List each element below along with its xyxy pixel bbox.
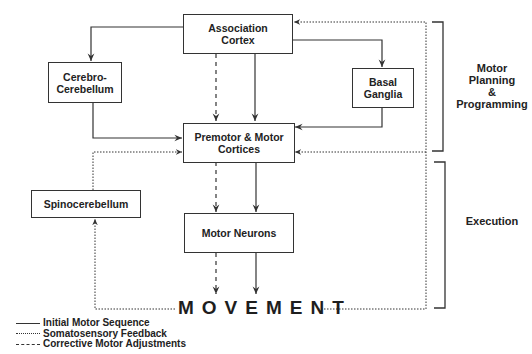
bracket-execution [434, 162, 445, 308]
box-basal-ganglia: Basal Ganglia [352, 68, 414, 108]
box-motor-neurons: Motor Neurons [184, 213, 294, 253]
dashed-line-icon [16, 344, 40, 345]
box-cerebro-cerebellum: Cerebro- Cerebellum [48, 62, 122, 103]
arrow-assoc-to-cerebro [91, 27, 183, 61]
dotted-line-icon [16, 333, 40, 334]
feedback-movement-right-loop [294, 22, 426, 309]
solid-line-icon [16, 323, 40, 324]
arrow-assoc-to-basal [292, 40, 382, 67]
legend-item-initial: Initial Motor Sequence [16, 318, 186, 329]
bracket-planning [432, 22, 443, 151]
arrow-basal-to-premotor [295, 107, 382, 127]
arrow-cerebro-to-premotor [93, 102, 182, 138]
feedback-spinocerebellum-to-premotor [93, 152, 182, 190]
box-premotor-motor-cortices: Premotor & Motor Cortices [183, 123, 295, 163]
movement-label: MOVEMENT [178, 297, 352, 319]
feedback-movement-to-spinocerebellum [95, 219, 175, 309]
box-spinocerebellum: Spinocerebellum [31, 190, 141, 218]
phase-label-planning: Motor Planning & Programming [452, 62, 532, 110]
legend-label: Initial Motor Sequence [43, 318, 150, 329]
legend-label: Corrective Motor Adjustments [43, 339, 186, 350]
box-association-cortex: Association Cortex [183, 14, 293, 54]
legend-item-corrective: Corrective Motor Adjustments [16, 339, 186, 350]
legend: Initial Motor Sequence Somatosensory Fee… [16, 318, 186, 350]
phase-label-execution: Execution [452, 215, 532, 227]
